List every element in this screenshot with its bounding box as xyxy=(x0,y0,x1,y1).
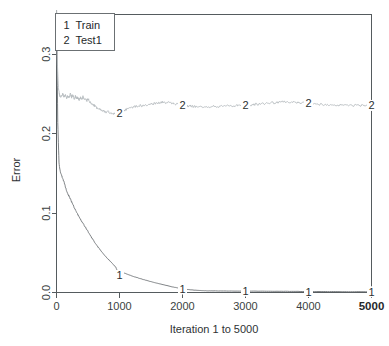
series-marker-train: 1 xyxy=(368,286,374,298)
x-tick-label: 2000 xyxy=(170,300,194,312)
series-marker-train: 1 xyxy=(305,286,311,298)
chart-background xyxy=(0,0,389,346)
y-tick-label: 0.1 xyxy=(40,205,52,220)
y-tick-label: 0.2 xyxy=(40,126,52,141)
x-tick-label: 3000 xyxy=(233,300,257,312)
series-marker-test1: 2 xyxy=(305,97,311,109)
legend-key-test1: 2 xyxy=(64,34,70,46)
error-vs-iteration-chart: 010002000300040005000 0.00.10.20.3 Error… xyxy=(0,0,389,346)
x-tick-label: 4000 xyxy=(296,300,320,312)
legend-label-test1: Test1 xyxy=(76,34,102,46)
legend-key-train: 1 xyxy=(64,19,70,31)
legend-label-train: Train xyxy=(76,19,101,31)
series-marker-test1: 2 xyxy=(368,99,374,111)
series-marker-train: 1 xyxy=(179,283,185,295)
x-tick-label: 1000 xyxy=(107,300,131,312)
chart-legend: 1Train2Test1 xyxy=(56,14,115,51)
series-marker-test1: 2 xyxy=(242,99,248,111)
y-axis-title: Error xyxy=(10,157,22,182)
series-marker-train: 1 xyxy=(242,285,248,297)
series-marker-train: 1 xyxy=(116,269,122,281)
x-axis-title: Iteration 1 to 5000 xyxy=(170,323,259,335)
x-tick-label: 0 xyxy=(53,300,59,312)
x-tick-label: 5000 xyxy=(359,300,385,312)
series-marker-test1: 2 xyxy=(179,99,185,111)
y-tick-label: 0.3 xyxy=(40,47,52,62)
series-marker-test1: 2 xyxy=(116,107,122,119)
y-tick-label: 0.0 xyxy=(40,285,52,300)
chart-canvas: 010002000300040005000 0.00.10.20.3 Error… xyxy=(0,0,389,346)
